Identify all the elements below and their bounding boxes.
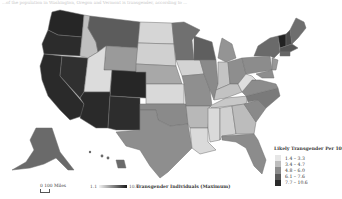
state-hi[interactable]	[116, 160, 126, 168]
state-sd[interactable]	[136, 43, 176, 66]
legend-label: 4.8 – 6.0	[285, 168, 305, 173]
state-ak[interactable]	[12, 128, 74, 170]
state-ms[interactable]	[208, 108, 220, 142]
state-ct-ri[interactable]	[280, 52, 290, 56]
state-hi-island	[107, 157, 110, 160]
state-me[interactable]	[290, 18, 306, 44]
map-legend: Likely Transgender Per 100,000 1.4 – 3.3…	[270, 146, 342, 186]
legend-swatch	[275, 180, 281, 186]
legend-label: 6.1 – 7.6	[285, 174, 305, 179]
scale-label: 0 100 Miles	[40, 183, 66, 188]
gradient-title: Transgender Individuals (Maximum)	[136, 184, 230, 189]
scale-bar: 0 100 Miles	[40, 183, 66, 193]
gradient-bar	[99, 185, 127, 188]
state-wy[interactable]	[104, 46, 138, 72]
scale-bar-line	[40, 189, 50, 193]
state-nj[interactable]	[272, 58, 278, 70]
gradient-min: 1.1	[90, 184, 97, 189]
legend-label: 7.7 – 10.6	[285, 180, 308, 185]
state-co[interactable]	[110, 70, 146, 98]
gradient-legend: 1.1 10.6	[90, 184, 139, 189]
state-nd[interactable]	[138, 22, 174, 44]
state-hi-island	[89, 151, 91, 153]
legend-item: 7.7 – 10.6	[275, 180, 342, 186]
legend-title: Likely Transgender Per 100,000	[274, 146, 342, 151]
state-ia[interactable]	[176, 60, 204, 76]
state-ny[interactable]	[254, 36, 280, 58]
state-ks[interactable]	[146, 84, 184, 104]
state-hi-island	[101, 155, 104, 158]
state-az[interactable]	[80, 92, 110, 128]
state-wi[interactable]	[194, 36, 216, 60]
legend-label: 3.4 – 4.7	[285, 162, 305, 167]
state-fl[interactable]	[222, 134, 266, 174]
state-mi[interactable]	[218, 38, 236, 62]
legend-label: 1.4 – 3.3	[285, 156, 305, 161]
state-ar[interactable]	[186, 106, 210, 128]
state-nm[interactable]	[108, 96, 140, 130]
